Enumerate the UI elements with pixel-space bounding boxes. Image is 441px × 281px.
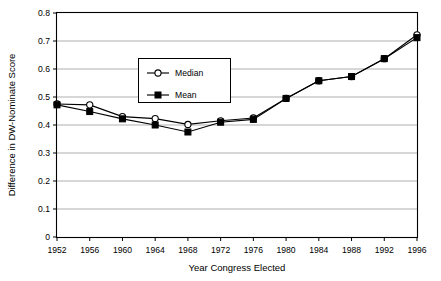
x-axis-tick-label: 1956 [80, 245, 99, 255]
chart-container: 00.10.20.30.40.50.60.70.8 19521956196019… [0, 0, 441, 281]
y-axis-tick-label: 0.8 [38, 8, 50, 18]
x-axis-tick-label: 1988 [342, 245, 361, 255]
data-point-median-1964 [152, 115, 158, 121]
data-point-mean-1996 [414, 35, 420, 41]
x-axis-tick-label: 1952 [47, 245, 66, 255]
data-point-mean-1976 [250, 116, 256, 122]
dw-nominate-line-chart: 00.10.20.30.40.50.60.70.8 19521956196019… [0, 0, 441, 281]
x-axis-title: Year Congress Elected [189, 262, 286, 273]
y-axis-tick-label: 0.1 [38, 204, 50, 214]
data-point-mean-1960 [119, 116, 125, 122]
legend-label-mean: Mean [175, 90, 197, 100]
x-axis-tick-label: 1996 [407, 245, 426, 255]
y-axis-tick-label: 0.6 [38, 64, 50, 74]
data-point-mean-1964 [152, 122, 158, 128]
data-point-mean-1992 [381, 56, 387, 62]
y-axis-tick-label: 0.2 [38, 176, 50, 186]
legend-label-median: Median [175, 68, 203, 78]
x-axis-tick-label: 1992 [375, 245, 394, 255]
y-axis-tick-labels: 00.10.20.30.40.50.60.70.8 [38, 8, 50, 242]
y-axis-tick-label: 0.4 [38, 120, 50, 130]
x-axis-tick-label: 1972 [211, 245, 230, 255]
chart-legend: MedianMean [139, 59, 231, 103]
data-point-mean-1984 [316, 78, 322, 84]
x-axis-tick-label: 1960 [113, 245, 132, 255]
data-point-median-1968 [185, 121, 191, 127]
data-point-mean-1968 [185, 129, 191, 135]
x-axis-tick-label: 1968 [178, 245, 197, 255]
x-axis-tick-label: 1980 [277, 245, 296, 255]
data-point-mean-1956 [87, 109, 93, 115]
data-point-mean-1988 [349, 74, 355, 80]
legend-marker-mean [155, 92, 161, 98]
x-axis-tick-label: 1976 [244, 245, 263, 255]
y-axis-tick-label: 0.7 [38, 36, 50, 46]
data-point-mean-1972 [218, 119, 224, 125]
y-axis-tick-label: 0 [45, 232, 50, 242]
data-point-mean-1980 [283, 95, 289, 101]
y-axis-tick-label: 0.3 [38, 148, 50, 158]
data-point-median-1956 [87, 102, 93, 108]
x-axis-tick-label: 1964 [146, 245, 165, 255]
data-point-mean-1952 [54, 102, 60, 108]
y-axis-tick-label: 0.5 [38, 92, 50, 102]
x-axis-tick-label: 1984 [309, 245, 328, 255]
y-axis-title: Difference in DW-Nominate Score [6, 54, 17, 197]
legend-marker-median [155, 70, 161, 76]
